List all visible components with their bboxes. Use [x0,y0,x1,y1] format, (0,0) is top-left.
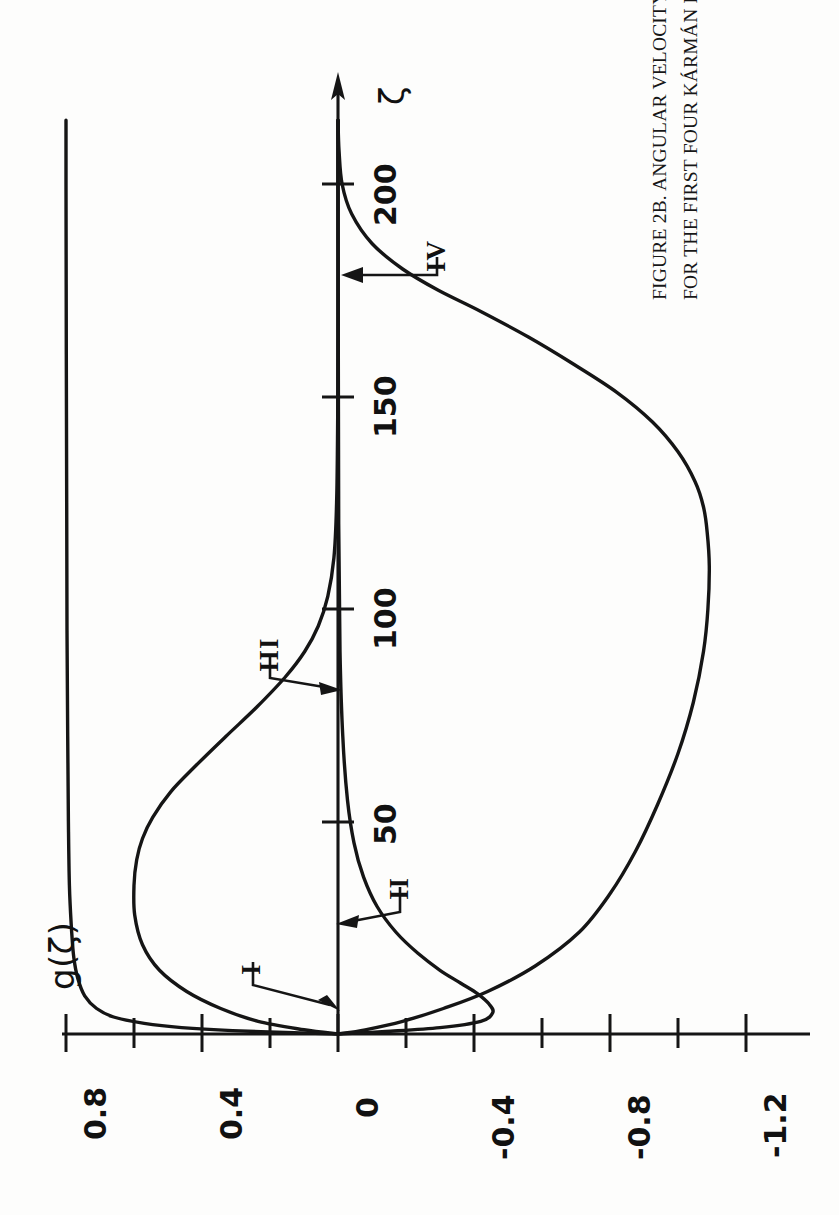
x-axis-title: ζ [372,86,412,105]
g-tick-label-0.8: 0.8 [78,1087,113,1140]
zeta-tick-label-150: 150 [368,375,403,438]
caption-line-2: FOR THE FIRST FOUR KÁRMÁN FLOWS. [677,0,705,300]
zeta-tick-label-100: 100 [368,587,403,650]
figure-caption: FIGURE 2B. ANGULAR VELOCITY AS A FUNCTIO… [640,0,705,300]
zeta-tick-label-50: 50 [368,803,403,845]
curve-annotation-I: I [236,963,267,975]
caption-text-1: FIGURE 2B. ANGULAR VELOCITY AS A FUNCTIO… [649,0,670,300]
g-tick-label-0: 0 [350,1097,385,1118]
figure-page: 0.8 0.4 0 -0.4 -0.8 -1.2 50 100 150 200 … [0,0,839,1215]
g-tick-label--0.4: -0.4 [486,1094,521,1160]
curve-III [134,120,338,1034]
curve-annotation-IV: IV [421,240,452,272]
zeta-tick-label-200: 200 [368,163,403,226]
g-tick-label--0.8: -0.8 [622,1094,657,1160]
curve-annotation-II: II [384,877,415,900]
curve-annotation-III: III [254,637,285,672]
g-tick-label--1.2: -1.2 [758,1092,793,1158]
plot-svg [0,0,839,1215]
caption-line-1: FIGURE 2B. ANGULAR VELOCITY AS A FUNCTIO… [640,0,677,300]
curve-I [66,120,338,1034]
curve-II [338,120,493,1034]
g-tick-label-0.4: 0.4 [214,1087,249,1140]
arrowhead-IV [341,267,363,283]
plot-area [0,0,839,1215]
y-axis-title: g(ζ) [42,921,82,990]
